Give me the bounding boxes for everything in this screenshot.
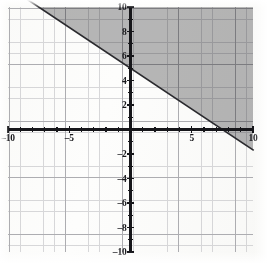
- x-tick: [167, 127, 168, 132]
- x-tick: [81, 127, 82, 132]
- y-tick-label: –4: [117, 174, 126, 184]
- x-tick: [216, 127, 217, 132]
- x-tick: [179, 127, 180, 132]
- y-tick-label: 4: [122, 76, 127, 86]
- x-tick: [240, 127, 241, 132]
- scan-edge-bottom: [0, 252, 268, 264]
- y-tick: [127, 153, 134, 154]
- y-tick-label: 10: [117, 2, 126, 12]
- y-tick-label: –8: [117, 223, 126, 233]
- y-tick: [127, 80, 134, 81]
- x-tick: [32, 127, 33, 132]
- y-tick: [128, 190, 133, 191]
- x-tick: [203, 127, 204, 132]
- x-tick: [154, 127, 155, 132]
- y-tick-label: 8: [122, 27, 127, 37]
- y-tick: [128, 19, 133, 20]
- y-tick: [127, 31, 134, 32]
- y-tick: [128, 43, 133, 44]
- y-tick: [127, 178, 134, 179]
- x-tick-label: –10: [1, 133, 15, 143]
- x-tick: [44, 127, 45, 132]
- x-tick: [142, 127, 143, 132]
- y-tick: [127, 227, 134, 228]
- x-tick: [105, 127, 106, 132]
- x-tick: [20, 127, 21, 132]
- plot-area: –10–5510 108642–2–4–6–8–10: [8, 7, 253, 252]
- y-tick: [128, 117, 133, 118]
- y-tick: [128, 92, 133, 93]
- y-tick: [127, 55, 134, 56]
- x-tick: [56, 127, 57, 132]
- y-tick: [128, 239, 133, 240]
- x-tick: [252, 126, 253, 133]
- x-tick-label: 5: [189, 133, 194, 143]
- x-tick: [191, 126, 192, 133]
- y-tick-label: 2: [122, 100, 127, 110]
- coordinate-plane-figure: –10–5510 108642–2–4–6–8–10: [0, 0, 268, 264]
- x-tick: [118, 127, 119, 132]
- y-tick: [128, 141, 133, 142]
- y-tick: [128, 215, 133, 216]
- y-tick: [128, 68, 133, 69]
- y-tick: [128, 166, 133, 167]
- y-tick: [127, 251, 134, 252]
- y-tick-label: –6: [117, 198, 126, 208]
- y-tick-label: 6: [122, 51, 127, 61]
- x-tick-label: 10: [248, 133, 257, 143]
- y-tick: [127, 104, 134, 105]
- y-tick-label: –10: [113, 247, 127, 257]
- x-tick: [7, 126, 8, 133]
- x-tick: [93, 127, 94, 132]
- scan-edge-right: [254, 0, 268, 264]
- y-tick: [127, 202, 134, 203]
- y-tick: [127, 6, 134, 7]
- x-tick: [69, 126, 70, 133]
- y-tick-label: –2: [117, 149, 126, 159]
- x-tick: [228, 127, 229, 132]
- x-tick-label: –5: [65, 133, 74, 143]
